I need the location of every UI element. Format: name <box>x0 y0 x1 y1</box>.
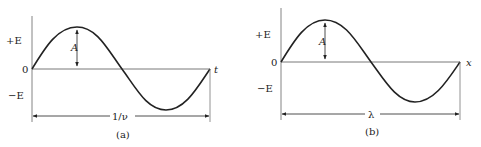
label-zero: 0 <box>271 57 277 68</box>
panel-a: +E 0 −E t A 1/ν (a) <box>6 16 219 140</box>
sine-curve <box>32 27 210 110</box>
amplitude-label: A <box>318 36 326 47</box>
span-label: 1/ν <box>112 111 128 122</box>
label-minus-e: −E <box>8 90 24 101</box>
caption-b: (b) <box>365 126 379 137</box>
label-plus-e: +E <box>255 29 271 40</box>
amplitude-label: A <box>70 42 78 53</box>
sine-wave-diagram: +E 0 −E t A 1/ν (a) +E 0 −E x A λ (b) <box>0 0 481 147</box>
label-plus-e: +E <box>6 35 22 46</box>
label-zero: 0 <box>22 64 28 75</box>
panel-b: +E 0 −E x A λ (b) <box>255 8 472 137</box>
span-label: λ <box>368 109 375 120</box>
label-minus-e: −E <box>257 83 273 94</box>
sine-curve <box>281 20 460 102</box>
axis-label-x: x <box>466 57 472 68</box>
caption-a: (a) <box>116 129 130 140</box>
axis-label-t: t <box>214 64 219 75</box>
